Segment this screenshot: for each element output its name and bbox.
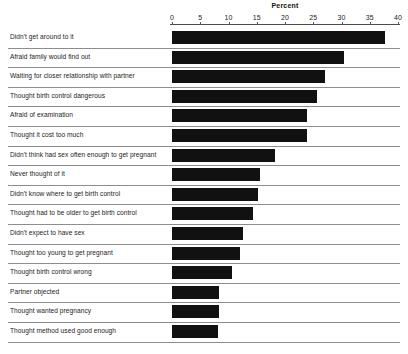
row-separator bbox=[8, 204, 400, 205]
category-label: Thought wanted pregnancy bbox=[10, 307, 91, 314]
bar bbox=[172, 286, 219, 299]
axis-tick-mark bbox=[342, 22, 343, 25]
row-separator bbox=[8, 67, 400, 68]
bar bbox=[172, 149, 275, 162]
chart-row: Didn't get around to it bbox=[0, 30, 408, 50]
axis-tick-mark bbox=[229, 22, 230, 25]
bar bbox=[172, 207, 253, 220]
category-label: Thought birth control dangerous bbox=[10, 92, 105, 99]
row-separator bbox=[8, 302, 400, 303]
bar bbox=[172, 227, 243, 240]
axis-tick-mark bbox=[398, 22, 399, 25]
axis-tick-mark bbox=[257, 22, 258, 25]
category-label: Afraid family would find out bbox=[10, 53, 90, 60]
row-separator bbox=[8, 48, 400, 49]
row-separator bbox=[8, 185, 400, 186]
axis-tick-label: 35 bbox=[366, 14, 374, 21]
bar bbox=[172, 266, 232, 279]
bar bbox=[172, 109, 307, 122]
chart-row: Never thought of it bbox=[0, 167, 408, 187]
row-separator bbox=[8, 263, 400, 264]
category-label: Thought had to be older to get birth con… bbox=[10, 209, 137, 216]
row-separator bbox=[8, 126, 400, 127]
bar bbox=[172, 168, 260, 181]
chart-row: Didn't know where to get birth control bbox=[0, 187, 408, 207]
chart-rows: Didn't get around to itAfraid family wou… bbox=[0, 30, 408, 344]
row-separator bbox=[8, 224, 400, 225]
category-label: Waiting for closer relationship with par… bbox=[10, 72, 135, 79]
row-separator bbox=[8, 342, 400, 343]
category-label: Never thought of it bbox=[10, 170, 65, 177]
axis-tick-label: 20 bbox=[281, 14, 289, 21]
axis-tick-mark bbox=[370, 22, 371, 25]
row-separator bbox=[8, 87, 400, 88]
axis-tick-mark bbox=[285, 22, 286, 25]
axis-tick-label: 15 bbox=[253, 14, 261, 21]
row-separator bbox=[8, 106, 400, 107]
category-label: Didn't think had sex often enough to get… bbox=[10, 151, 156, 158]
chart-row: Partner objected bbox=[0, 285, 408, 305]
row-separator bbox=[8, 283, 400, 284]
axis-tick-label: 25 bbox=[309, 14, 317, 21]
chart-row: Thought it cost too much bbox=[0, 128, 408, 148]
horizontal-bar-chart: Percent 0510152025303540 Didn't get arou… bbox=[0, 0, 408, 354]
axis-tick-label: 10 bbox=[225, 14, 233, 21]
chart-row: Thought birth control dangerous bbox=[0, 89, 408, 109]
chart-row: Thought too young to get pregnant bbox=[0, 246, 408, 266]
category-label: Partner objected bbox=[10, 288, 59, 295]
bar bbox=[172, 70, 325, 83]
axis-tick-label: 0 bbox=[170, 14, 174, 21]
chart-row: Didn't think had sex often enough to get… bbox=[0, 148, 408, 168]
axis-tick-label: 5 bbox=[198, 14, 202, 21]
bar bbox=[172, 129, 307, 142]
chart-row: Thought birth control wrong bbox=[0, 265, 408, 285]
axis-tick-mark bbox=[313, 22, 314, 25]
chart-row: Thought method used good enough bbox=[0, 324, 408, 344]
category-label: Thought birth control wrong bbox=[10, 268, 92, 275]
chart-row: Afraid of examination bbox=[0, 108, 408, 128]
row-separator bbox=[8, 165, 400, 166]
bar bbox=[172, 247, 240, 260]
chart-row: Afraid family would find out bbox=[0, 50, 408, 70]
axis-tick-label: 30 bbox=[338, 14, 346, 21]
chart-row: Didn't expect to have sex bbox=[0, 226, 408, 246]
bar bbox=[172, 325, 218, 338]
bar bbox=[172, 305, 219, 318]
bar bbox=[172, 90, 317, 103]
axis-tick-label: 40 bbox=[394, 14, 402, 21]
axis-tick-mark bbox=[172, 22, 173, 25]
axis-tick-mark bbox=[200, 22, 201, 25]
bar bbox=[172, 188, 258, 201]
chart-row: Thought had to be older to get birth con… bbox=[0, 206, 408, 226]
chart-row: Thought wanted pregnancy bbox=[0, 304, 408, 324]
category-label: Didn't get around to it bbox=[10, 33, 74, 40]
category-label: Didn't know where to get birth control bbox=[10, 190, 120, 197]
bar bbox=[172, 51, 344, 64]
axis-title: Percent bbox=[172, 2, 398, 9]
category-label: Thought method used good enough bbox=[10, 327, 116, 334]
row-separator bbox=[8, 244, 400, 245]
row-separator bbox=[8, 322, 400, 323]
row-separator bbox=[8, 146, 400, 147]
bar bbox=[172, 31, 385, 44]
category-label: Didn't expect to have sex bbox=[10, 229, 85, 236]
category-label: Thought it cost too much bbox=[10, 131, 83, 138]
chart-row: Waiting for closer relationship with par… bbox=[0, 69, 408, 89]
category-label: Afraid of examination bbox=[10, 111, 73, 118]
category-label: Thought too young to get pregnant bbox=[10, 249, 113, 256]
